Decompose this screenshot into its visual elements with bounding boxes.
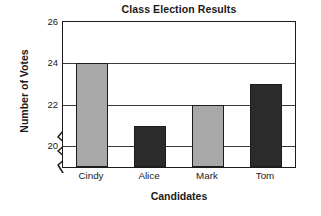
y-axis-tick-label: 26 [32,16,58,27]
y-axis-tick-label: 24 [32,57,58,68]
bar-tom [250,84,282,167]
x-axis-tick-label: Alice [138,170,159,181]
bar-cindy [76,63,108,167]
bar-alice [134,126,166,167]
chart-title: Class Election Results [62,3,296,15]
y-axis-tick-label: 22 [32,98,58,109]
bar-chart: Class Election Results Number of Votes 2… [0,0,321,216]
x-axis-tick-label: Mark [196,170,218,181]
x-axis-title: Candidates [62,190,296,202]
bar-mark [192,105,224,167]
x-axis-tick-label: Cindy [78,170,103,181]
x-axis-tick-label: Tom [256,170,275,181]
x-axis-tick-labels: CindyAliceMarkTom [62,170,296,186]
plot-area [62,21,296,168]
